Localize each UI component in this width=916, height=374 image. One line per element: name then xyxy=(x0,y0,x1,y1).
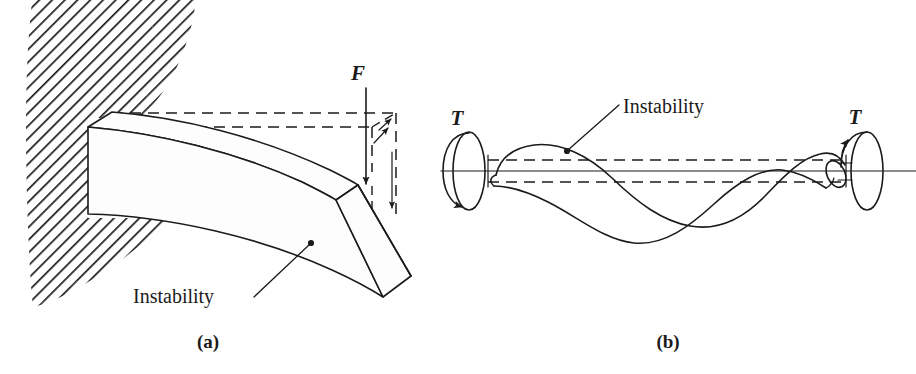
caption-b: (b) xyxy=(656,331,679,353)
torque-label-right: T xyxy=(849,105,863,129)
figure-container: F Instability (a) T xyxy=(0,0,916,374)
instability-label-b: Instability xyxy=(623,95,704,118)
caption-a: (a) xyxy=(197,331,219,353)
leader-dot-a xyxy=(308,240,314,246)
panel-b-group: T T xyxy=(441,95,916,353)
deformed-beam-solid-body xyxy=(88,112,411,297)
instability-leader-line-b xyxy=(564,105,619,154)
instability-label-a: Instability xyxy=(133,285,214,308)
leader-dot-b xyxy=(564,148,570,154)
panel-a-group: F Instability (a) xyxy=(26,0,411,353)
figure-canvas: F Instability (a) T xyxy=(0,0,916,374)
force-label-F: F xyxy=(350,61,365,85)
torque-label-left: T xyxy=(451,106,465,130)
